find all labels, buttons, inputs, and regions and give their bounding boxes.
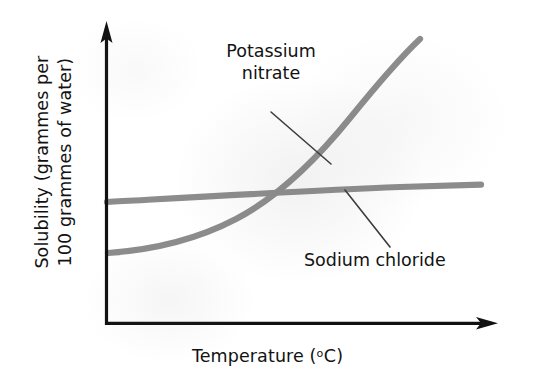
- y-axis-label: Solubility (grammes per 100 grammes of w…: [31, 24, 77, 300]
- x-axis-label-unit: C): [324, 346, 343, 366]
- series-line-sodium-chloride: [107, 185, 481, 202]
- series-label-sodium-chloride: Sodium chloride: [304, 249, 446, 271]
- x-axis-label-text: Temperature (: [192, 346, 317, 366]
- y-axis-label-line-2: 100 grammes of water): [54, 24, 77, 300]
- y-axis-label-line-1: Solubility (grammes per: [32, 56, 52, 269]
- leader-line-potassium-nitrate: [271, 112, 331, 164]
- chart-figure: Solubility (grammes per 100 grammes of w…: [0, 0, 535, 387]
- degree-symbol-icon: o: [316, 347, 323, 360]
- series-label-potassium-nitrate: Potassium nitrate: [196, 40, 346, 85]
- series-label-sodium-chloride-text: Sodium chloride: [304, 250, 446, 270]
- series-label-potassium-nitrate-line-2: nitrate: [196, 62, 346, 84]
- x-axis-label: Temperature (oC): [0, 345, 535, 368]
- leader-line-sodium-chloride: [345, 190, 390, 247]
- series-label-potassium-nitrate-line-1: Potassium: [226, 41, 315, 61]
